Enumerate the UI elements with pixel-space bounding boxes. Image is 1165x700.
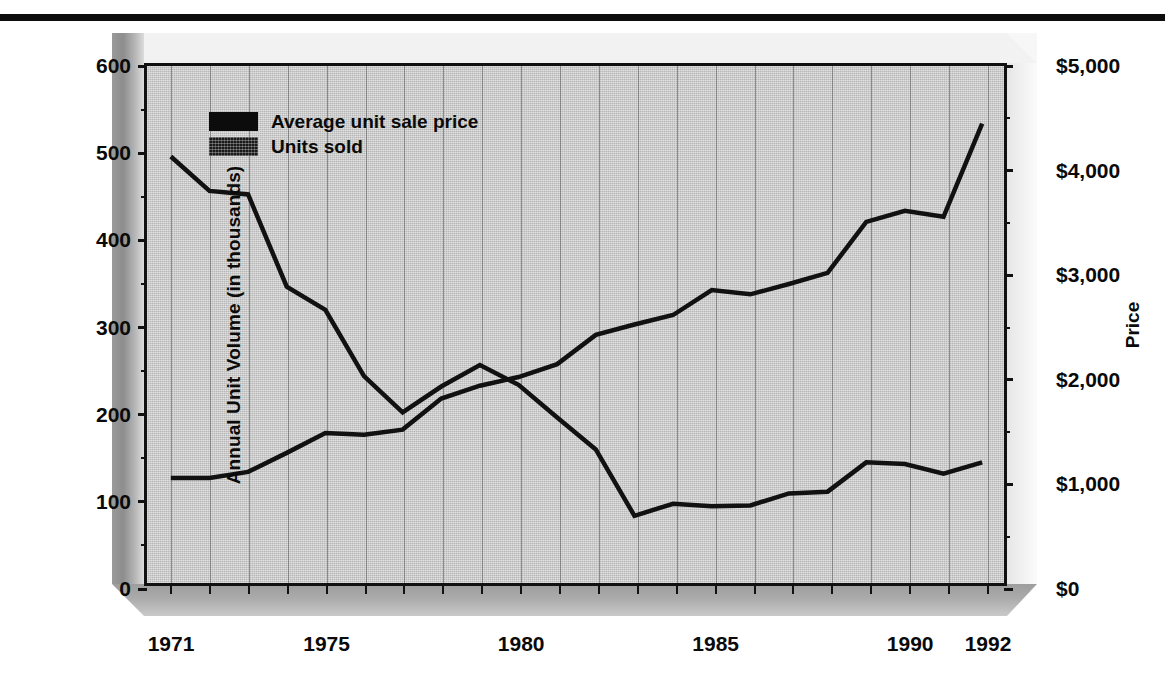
right-tick-label-5000: $5,000 — [1056, 54, 1120, 78]
x-tick-1972 — [209, 583, 211, 594]
frame-floor — [112, 584, 1037, 616]
x-tick-1978 — [442, 583, 444, 594]
x-tick-1971 — [170, 583, 172, 594]
legend-swatch-price-icon — [209, 112, 258, 131]
legend-item-units: Units sold — [209, 135, 478, 158]
right-minor-tick-3500 — [1004, 222, 1010, 224]
legend-swatch-units-icon — [209, 137, 258, 156]
x-tick-1990 — [909, 583, 911, 594]
legend-item-price: Average unit sale price — [209, 110, 478, 133]
x-tick-1974 — [287, 583, 289, 594]
legend-label-units: Units sold — [271, 136, 363, 158]
right-tick-1000 — [1004, 483, 1013, 486]
x-tick-label-1980: 1980 — [498, 632, 545, 656]
x-tick-1977 — [403, 583, 405, 594]
left-minor-tick-50 — [141, 544, 147, 546]
x-tick-label-1975: 1975 — [303, 632, 350, 656]
right-tick-label-4000: $4,000 — [1056, 159, 1120, 183]
left-tick-label-400: 400 — [96, 228, 131, 252]
left-tick-label-100: 100 — [96, 490, 131, 514]
right-tick-label-1000: $1,000 — [1056, 472, 1120, 496]
left-tick-200 — [138, 413, 147, 416]
x-tick-1975 — [326, 583, 328, 594]
top-divider-rule — [0, 14, 1165, 21]
frame-right-wall — [1007, 63, 1037, 616]
x-tick-1985 — [715, 583, 717, 594]
legend-label-price: Average unit sale price — [271, 111, 478, 133]
left-minor-tick-450 — [141, 196, 147, 198]
x-tick-1981 — [559, 583, 561, 594]
left-tick-label-500: 500 — [96, 141, 131, 165]
left-axis-title: Annual Unit Volume (in thousands) — [223, 165, 245, 484]
left-minor-tick-350 — [141, 283, 147, 285]
x-tick-1980 — [520, 583, 522, 594]
right-minor-tick-2500 — [1004, 327, 1010, 329]
right-tick-label-0: $0 — [1056, 577, 1079, 601]
line-units-sold — [171, 124, 982, 478]
left-tick-300 — [138, 326, 147, 329]
frame-top-right-bevel — [1007, 33, 1037, 63]
x-tick-1992 — [987, 583, 989, 594]
right-minor-tick-500 — [1004, 536, 1010, 538]
left-tick-label-600: 600 — [96, 54, 131, 78]
right-minor-tick-4500 — [1004, 117, 1010, 119]
left-tick-label-300: 300 — [96, 316, 131, 340]
left-tick-500 — [138, 152, 147, 155]
left-tick-label-200: 200 — [96, 403, 131, 427]
x-tick-1988 — [831, 583, 833, 594]
right-axis-title: Price — [1122, 301, 1144, 347]
right-tick-2000 — [1004, 378, 1013, 381]
chart-3d-frame: 0100200300400500600 $0$1,000$2,000$3,000… — [112, 33, 1037, 616]
left-tick-600 — [138, 65, 147, 68]
x-tick-1991 — [948, 583, 950, 594]
left-minor-tick-550 — [141, 109, 147, 111]
left-minor-tick-150 — [141, 457, 147, 459]
x-tick-1982 — [598, 583, 600, 594]
x-tick-label-1985: 1985 — [692, 632, 739, 656]
right-tick-label-3000: $3,000 — [1056, 263, 1120, 287]
left-tick-400 — [138, 239, 147, 242]
x-tick-label-1971: 1971 — [148, 632, 195, 656]
x-tick-1983 — [637, 583, 639, 594]
right-minor-tick-1500 — [1004, 431, 1010, 433]
left-minor-tick-250 — [141, 370, 147, 372]
x-tick-label-1990: 1990 — [887, 632, 934, 656]
left-tick-label-0: 0 — [119, 577, 131, 601]
chart-legend: Average unit sale price Units sold — [209, 110, 478, 160]
line-average-unit-sale-price — [171, 156, 982, 515]
x-tick-1987 — [792, 583, 794, 594]
x-tick-label-1992: 1992 — [965, 632, 1012, 656]
left-tick-0 — [138, 588, 147, 591]
right-tick-0 — [1004, 588, 1013, 591]
right-tick-5000 — [1004, 65, 1013, 68]
right-tick-3000 — [1004, 274, 1013, 277]
frame-top-face — [112, 33, 1037, 63]
x-tick-1976 — [365, 583, 367, 594]
x-tick-1984 — [676, 583, 678, 594]
x-tick-1986 — [754, 583, 756, 594]
x-tick-1989 — [870, 583, 872, 594]
right-tick-4000 — [1004, 169, 1013, 172]
x-tick-1979 — [481, 583, 483, 594]
plot-area: 0100200300400500600 $0$1,000$2,000$3,000… — [144, 63, 1007, 586]
x-tick-1973 — [248, 583, 250, 594]
right-tick-label-2000: $2,000 — [1056, 368, 1120, 392]
left-tick-100 — [138, 500, 147, 503]
